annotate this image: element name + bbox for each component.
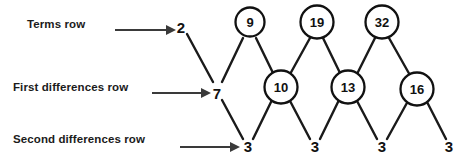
first-differences-arrow-head bbox=[201, 88, 211, 98]
connector-3a-to-10 bbox=[253, 100, 272, 139]
node-term-0: 2 bbox=[177, 19, 185, 36]
terms-to-first-differences-connectors bbox=[187, 34, 411, 82]
diagram-canvas: 2 9 19 32 7 10 bbox=[0, 0, 458, 163]
connector-32-to-16 bbox=[389, 38, 411, 77]
node-first-diff-0-value: 7 bbox=[213, 85, 221, 102]
node-first-diff-0: 7 bbox=[213, 85, 221, 102]
connector-3c-to-16 bbox=[387, 101, 408, 139]
terms-arrow-head bbox=[166, 25, 176, 35]
node-term-1: 9 bbox=[236, 8, 265, 37]
connector-9-to-10 bbox=[256, 38, 274, 75]
connector-13-to-3c bbox=[356, 99, 377, 139]
node-term-3: 32 bbox=[366, 6, 399, 39]
node-term-1-value: 9 bbox=[246, 15, 253, 30]
second-differences-row-nodes: 3 3 3 3 bbox=[244, 138, 453, 155]
node-second-diff-2-value: 3 bbox=[378, 138, 386, 155]
node-first-diff-2-value: 13 bbox=[341, 80, 355, 95]
connector-2-to-7 bbox=[187, 34, 213, 82]
node-first-diff-1-value: 10 bbox=[274, 80, 288, 95]
node-term-2: 19 bbox=[301, 6, 334, 39]
difference-table-diagram: Terms row First differences row Second d… bbox=[0, 0, 458, 163]
connector-7-to-9 bbox=[222, 38, 243, 82]
connector-13-to-32 bbox=[356, 38, 375, 76]
node-second-diff-3-value: 3 bbox=[445, 138, 453, 155]
node-term-2-value: 19 bbox=[310, 15, 324, 30]
node-first-diff-3: 16 bbox=[401, 73, 434, 106]
connector-19-to-13 bbox=[323, 38, 341, 75]
connector-7-to-3a bbox=[222, 100, 243, 139]
node-first-diff-2: 13 bbox=[332, 71, 365, 104]
node-term-3-value: 32 bbox=[375, 15, 389, 30]
connector-10-to-19 bbox=[289, 38, 310, 76]
first-differences-row-nodes: 7 10 13 16 bbox=[213, 71, 434, 106]
connector-10-to-3b bbox=[289, 99, 310, 139]
connector-3b-to-13 bbox=[320, 100, 339, 139]
node-first-diff-3-value: 16 bbox=[410, 82, 424, 97]
node-second-diff-0-value: 3 bbox=[244, 138, 252, 155]
node-first-diff-1: 10 bbox=[265, 71, 298, 104]
connector-16-to-3d bbox=[426, 100, 446, 139]
row-label-arrows bbox=[115, 25, 240, 152]
node-term-0-value: 2 bbox=[177, 19, 185, 36]
second-differences-arrow-head bbox=[230, 142, 240, 152]
terms-row-nodes: 2 9 19 32 bbox=[177, 6, 399, 39]
node-second-diff-1-value: 3 bbox=[311, 138, 319, 155]
